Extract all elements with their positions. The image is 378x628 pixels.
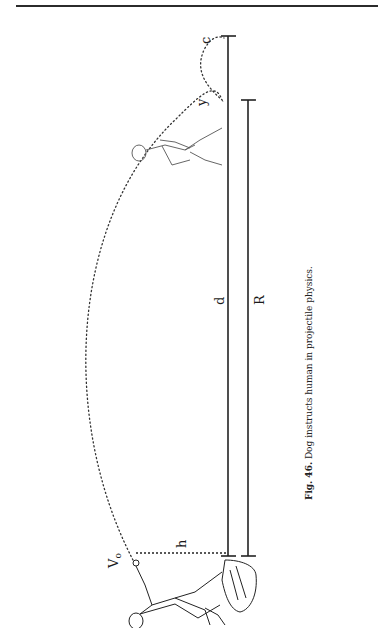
label-c: c	[198, 37, 213, 44]
projectile-figure: Vo h d R y c Fig. 46. Dog instructs huma…	[0, 0, 378, 628]
trajectory-dotted-curve	[86, 37, 224, 560]
range-R-line	[241, 100, 256, 556]
label-y: y	[194, 98, 209, 107]
label-d: d	[212, 297, 227, 305]
human-thrower-figure	[129, 560, 225, 628]
label-h: h	[174, 539, 189, 548]
figure-caption: Fig. 46. Dog instructs human in projecti…	[304, 266, 314, 500]
label-v0: Vo	[106, 553, 123, 569]
dog-figure	[222, 560, 256, 612]
label-R: R	[252, 294, 267, 305]
distance-d-line	[221, 36, 236, 556]
human-walker-figure	[132, 128, 222, 165]
